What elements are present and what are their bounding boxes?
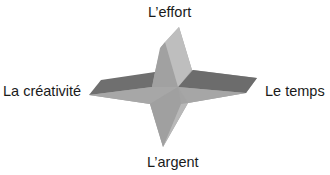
label-time: Le temps — [265, 84, 325, 99]
label-money: L’argent — [147, 155, 199, 170]
label-effort: L’effort — [148, 5, 191, 20]
label-creativity: La créativité — [3, 84, 81, 99]
